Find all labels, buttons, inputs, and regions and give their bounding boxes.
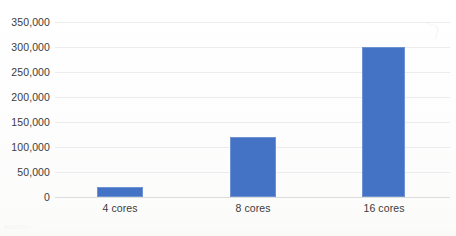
y-tick-label-50000: 50,000 xyxy=(0,167,50,178)
x-tick-label-4-cores: 4 cores xyxy=(102,203,137,214)
gridline-baseline-0 xyxy=(55,197,450,198)
y-tick-label-350000: 350,000 xyxy=(0,17,50,28)
gridline-350000 xyxy=(55,22,450,23)
x-tick-label-16-cores: 16 cores xyxy=(363,203,404,214)
bar-4-cores xyxy=(97,187,143,197)
y-tick-label-250000: 250,000 xyxy=(0,67,50,78)
scan-artifact-bottom-band xyxy=(0,228,456,236)
plot-area xyxy=(55,22,450,197)
bar-chart: 350,000 300,000 250,000 200,000 150,000 … xyxy=(0,0,456,236)
y-tick-label-0: 0 xyxy=(0,192,50,203)
y-tick-label-100000: 100,000 xyxy=(0,142,50,153)
y-tick-label-150000: 150,000 xyxy=(0,117,50,128)
bar-8-cores xyxy=(230,137,276,197)
bar-16-cores xyxy=(362,47,405,197)
y-tick-label-200000: 200,000 xyxy=(0,92,50,103)
x-tick-label-8-cores: 8 cores xyxy=(235,203,270,214)
y-tick-label-300000: 300,000 xyxy=(0,42,50,53)
scan-artifact-bottom-left xyxy=(4,225,44,229)
